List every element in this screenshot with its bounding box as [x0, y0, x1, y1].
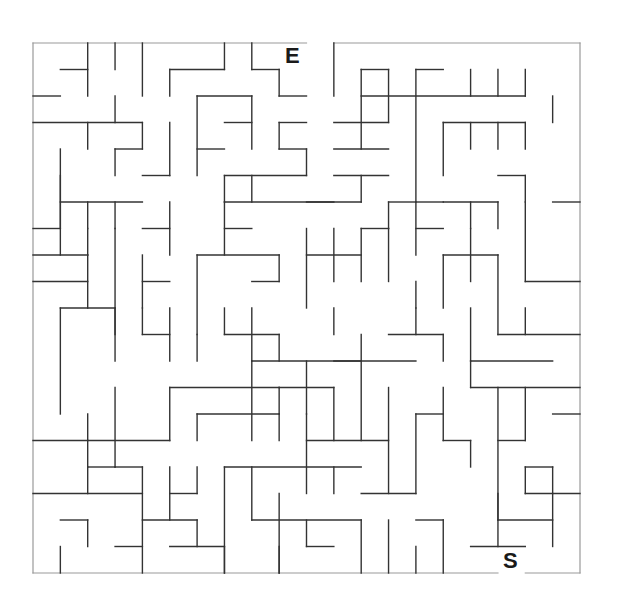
entrance-label: E — [285, 45, 300, 67]
exit-label: S — [503, 550, 518, 572]
maze-walls — [0, 0, 617, 608]
